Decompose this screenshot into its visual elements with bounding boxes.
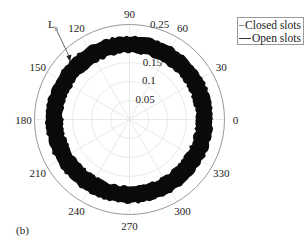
angle-tick-60: 60 bbox=[177, 22, 189, 34]
legend-item-open-slots: Open slots bbox=[239, 32, 301, 45]
angle-tick-0: 0 bbox=[233, 114, 239, 126]
angle-tick-300: 300 bbox=[174, 205, 191, 217]
angle-tick-150: 150 bbox=[29, 61, 46, 73]
closed-slots-line-icon bbox=[239, 25, 244, 26]
legend-item-closed-slots: Closed slots bbox=[239, 19, 301, 32]
legend-label: Closed slots bbox=[245, 19, 301, 32]
radial-tick-0.15: 0.15 bbox=[143, 56, 163, 68]
angle-tick-330: 330 bbox=[213, 167, 230, 179]
legend: Closed slots Open slots bbox=[237, 17, 304, 45]
angle-tick-240: 240 bbox=[68, 205, 85, 217]
angle-tick-210: 210 bbox=[29, 167, 46, 179]
open-slots-line-icon bbox=[239, 38, 251, 39]
angle-tick-90: 90 bbox=[124, 8, 136, 20]
ls-label: Ls bbox=[48, 18, 58, 33]
radial-tick-0.1: 0.1 bbox=[142, 74, 156, 86]
radial-tick-0.05: 0.05 bbox=[136, 93, 156, 105]
angle-tick-120: 120 bbox=[68, 22, 85, 34]
angle-tick-270: 270 bbox=[121, 220, 138, 232]
radial-tick-0.25: 0.25 bbox=[150, 18, 170, 30]
angle-tick-30: 30 bbox=[216, 61, 228, 73]
panel-label: (b) bbox=[16, 224, 29, 236]
angle-tick-180: 180 bbox=[15, 114, 32, 126]
ls-arrow-line bbox=[57, 31, 70, 58]
legend-label: Open slots bbox=[252, 32, 301, 45]
